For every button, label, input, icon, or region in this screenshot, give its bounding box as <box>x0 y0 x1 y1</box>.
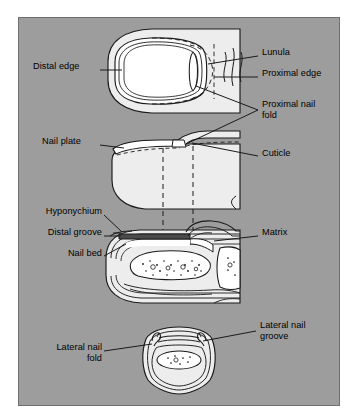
section-nail-plate <box>119 234 190 239</box>
cuticle-wedge <box>172 140 186 147</box>
label-lateral-nail-groove-line1: Lateral nail <box>260 320 306 330</box>
figure-root: Distal edge Lunula Proximal edge Proxima… <box>0 0 355 420</box>
label-matrix: Matrix <box>262 227 342 238</box>
label-lateral-nail-fold-line1: Lateral nail <box>56 342 102 352</box>
transverse-bone <box>157 351 201 369</box>
label-proximal-edge: Proximal edge <box>262 68 352 79</box>
label-hyponychium: Hyponychium <box>8 206 102 217</box>
label-cuticle: Cuticle <box>262 148 348 159</box>
label-lateral-nail-fold-line2: fold <box>87 353 102 363</box>
lunula-shape <box>189 52 197 91</box>
label-proximal-nail-fold: Proximal nailfold <box>262 99 352 121</box>
label-distal-groove: Distal groove <box>8 227 102 238</box>
dorsal-view <box>108 29 242 113</box>
label-distal-edge: Distal edge <box>33 61 109 72</box>
label-nail-plate: Nail plate <box>42 136 110 147</box>
label-proximal-nail-fold-line1: Proximal nail <box>262 99 315 109</box>
label-lateral-nail-groove: Lateral nailgroove <box>260 320 352 342</box>
label-lateral-nail-groove-line2: groove <box>260 331 288 341</box>
leader-lateral-nail-groove <box>203 331 256 341</box>
lateral-finger-outline <box>112 144 240 209</box>
label-proximal-nail-fold-line2: fold <box>262 110 277 120</box>
transverse-section <box>143 327 215 394</box>
lateral-view <box>112 131 240 209</box>
label-lateral-nail-fold: Lateral nailfold <box>8 342 102 364</box>
proximal-phalanx-fragment <box>217 247 240 289</box>
sagittal-section <box>106 221 240 303</box>
leader-hyponychium <box>104 215 122 232</box>
leader-proximal-nail-fold-b <box>186 110 258 144</box>
label-nail-bed: Nail bed <box>8 248 102 259</box>
label-lunula-text: Lunula <box>262 47 348 58</box>
